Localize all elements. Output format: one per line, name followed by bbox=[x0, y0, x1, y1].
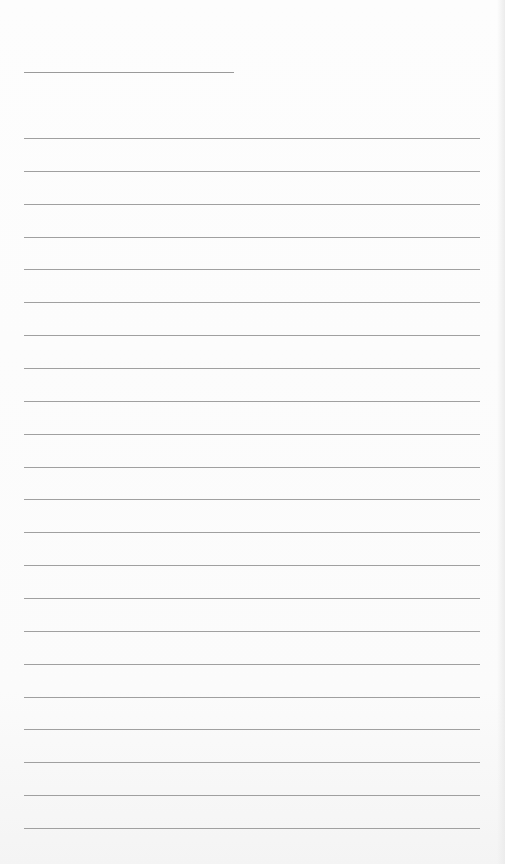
ruled-line bbox=[24, 697, 480, 698]
ruled-line bbox=[24, 565, 480, 566]
ruled-line bbox=[24, 598, 480, 599]
ruled-line bbox=[24, 729, 480, 730]
ruled-line bbox=[24, 237, 480, 238]
header-name-line bbox=[24, 72, 234, 73]
ruled-line bbox=[24, 467, 480, 468]
paper-edge-shadow bbox=[497, 0, 505, 864]
ruled-line bbox=[24, 302, 480, 303]
ruled-line bbox=[24, 138, 480, 139]
ruled-line bbox=[24, 631, 480, 632]
ruled-line bbox=[24, 532, 480, 533]
ruled-line bbox=[24, 664, 480, 665]
ruled-line bbox=[24, 795, 480, 796]
ruled-line bbox=[24, 204, 480, 205]
ruled-line bbox=[24, 269, 480, 270]
ruled-line bbox=[24, 171, 480, 172]
ruled-line bbox=[24, 434, 480, 435]
ruled-line bbox=[24, 368, 480, 369]
ruled-line bbox=[24, 335, 480, 336]
ruled-line bbox=[24, 828, 480, 829]
ruled-line bbox=[24, 401, 480, 402]
ruled-line bbox=[24, 762, 480, 763]
ruled-line bbox=[24, 499, 480, 500]
